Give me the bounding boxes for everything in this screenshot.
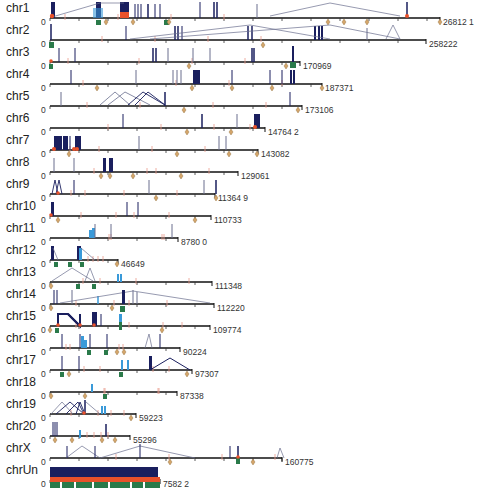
- axis-start-label: 0: [41, 105, 46, 115]
- chromosome-length-label: 97307: [195, 369, 219, 379]
- chromosome-length-label: 170969: [303, 61, 332, 71]
- chr3-features: [49, 46, 296, 69]
- chromosome-label: chr18: [6, 375, 36, 389]
- axis-start-label: 0: [41, 435, 46, 445]
- chromosome-figure: chr1026812 1chr20258222chr30170969chr401…: [0, 0, 480, 499]
- chr16-features: [62, 334, 160, 355]
- chr15-features: [48, 312, 164, 333]
- chromosome-length-label: 8780 0: [181, 237, 207, 247]
- chromosome-length-label: 143082: [261, 149, 290, 159]
- chromosome-label: chr7: [6, 133, 30, 147]
- chromosome-label: chrX: [6, 441, 31, 455]
- axis-start-label: 0: [41, 303, 46, 313]
- axis-start-label: 0: [41, 369, 46, 379]
- axis-start-label: 0: [41, 149, 46, 159]
- chr11-features: [89, 224, 172, 238]
- axis-start-label: 0: [41, 281, 46, 291]
- chromosome-label: chr14: [6, 287, 36, 301]
- axis-start-label: 0: [41, 237, 46, 247]
- chromosome-length-label: 173106: [305, 105, 334, 115]
- chrX-features: [66, 444, 284, 465]
- chr10-features: [49, 202, 197, 223]
- chromosome-label: chr1: [6, 1, 30, 15]
- chromosome-row-chr3: chr30170969: [6, 45, 332, 71]
- axis-start-label: 0: [41, 457, 46, 467]
- axis-start-label: 0: [41, 171, 46, 181]
- chromosome-label: chr10: [6, 199, 36, 213]
- chromosome-length-label: 55296: [133, 435, 157, 445]
- chromosome-row-chr5: chr50173106: [6, 89, 334, 115]
- chromosome-label: chr3: [6, 45, 30, 59]
- chromosome-label: chr11: [6, 221, 35, 235]
- chromosome-label: chr15: [6, 309, 36, 323]
- chromosome-length-label: 129061: [241, 171, 270, 181]
- axis-start-label: 0: [41, 83, 46, 93]
- axis-start-label: 0: [41, 259, 46, 269]
- chr5-features: [61, 92, 300, 113]
- chrUn-features: [50, 467, 160, 488]
- chr6-features: [123, 114, 260, 135]
- chr20-features: [53, 422, 117, 443]
- chromosome-label: chr8: [6, 155, 30, 169]
- chromosome-row-chr1: chr1026812 1: [6, 1, 474, 27]
- chromosome-row-chr7: chr70143082: [6, 133, 290, 159]
- chromosome-length-label: 111348: [215, 281, 242, 291]
- chr9-features: [52, 180, 218, 201]
- chromosome-length-label: 112220: [217, 303, 245, 313]
- axis-start-label: 0: [41, 479, 46, 489]
- chromosome-label: chr12: [6, 243, 36, 257]
- chr13-features: [49, 268, 122, 289]
- axis-start-label: 0: [41, 127, 46, 137]
- axis-start-label: 0: [41, 215, 46, 225]
- axis-start-label: 0: [41, 61, 46, 71]
- chromosome-label: chr5: [6, 89, 30, 103]
- chromosome-label: chr13: [6, 265, 36, 279]
- chr17-features: [60, 356, 190, 377]
- chr7-features: [52, 136, 259, 157]
- axis-start-label: 0: [41, 413, 46, 423]
- chromosome-length-label: 109774: [213, 325, 242, 335]
- chromosome-length-label: 87338: [180, 391, 204, 401]
- chromosome-length-label: 59223: [139, 413, 163, 423]
- chromosome-row-chr4: chr40187371: [6, 67, 354, 93]
- feature-overlay: [48, 2, 442, 488]
- axis-start-label: 0: [41, 325, 46, 335]
- chr1-features: [50, 2, 442, 25]
- chromosome-label: chr4: [6, 67, 30, 81]
- chr12-features: [51, 246, 119, 267]
- chromosome-label: chr6: [6, 111, 30, 125]
- chromosome-label: chrUn: [6, 463, 38, 477]
- chr14-features: [49, 290, 210, 312]
- chr8-features: [54, 158, 183, 179]
- chromosome-length-label: 7582 2: [163, 479, 189, 489]
- chromosome-length-label: 187371: [325, 83, 354, 93]
- chromosome-length-label: 46649: [121, 259, 145, 269]
- chromosome-length-label: 258222: [429, 39, 458, 49]
- chromosome-row-chrX: chrX0160775: [6, 441, 314, 467]
- axis-start-label: 0: [41, 39, 46, 49]
- axis-start-label: 0: [41, 17, 46, 27]
- chromosome-length-label: 26812 1: [443, 17, 474, 27]
- chromosome-length-label: 160775: [285, 457, 314, 467]
- chromosome-label: chr16: [6, 331, 36, 345]
- chromosome-row-chr11: chr1108780 0: [6, 221, 207, 247]
- chromosome-label: chr19: [6, 397, 36, 411]
- chromosome-label: chr2: [6, 23, 30, 37]
- chr19-features: [51, 400, 133, 421]
- chromosome-length-label: 14764 2: [268, 127, 299, 137]
- axis-start-label: 0: [41, 391, 46, 401]
- chromosome-label: chr20: [6, 419, 36, 433]
- axis-start-label: 0: [41, 193, 46, 203]
- chromosome-label: chr17: [6, 353, 36, 367]
- chromosome-label: chr9: [6, 177, 30, 191]
- chromosome-length-label: 110733: [214, 215, 242, 225]
- axis-start-label: 0: [41, 347, 46, 357]
- chromosome-length-label: 90224: [183, 347, 207, 357]
- chromosome-length-label: 11364 9: [218, 193, 248, 203]
- chr4-features: [71, 70, 324, 91]
